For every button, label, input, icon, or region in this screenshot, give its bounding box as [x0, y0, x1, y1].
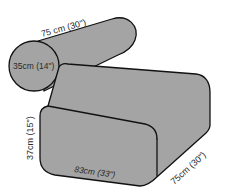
ottoman-height-label: 37cm (15") [25, 116, 35, 160]
product-dimension-diagram: 75 cm (30") 35cm (14") 37cm (15") 83cm (… [0, 0, 228, 196]
bolster-diameter-label: 35cm (14") [13, 61, 54, 71]
